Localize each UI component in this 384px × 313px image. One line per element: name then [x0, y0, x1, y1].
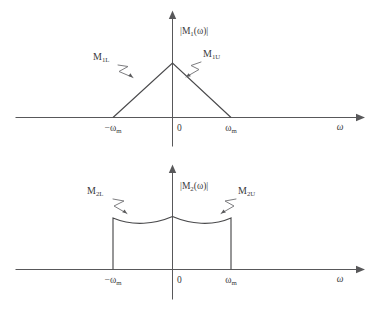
panel-2-callout-m2l-label: M2L	[87, 185, 103, 197]
panel-2-x-axis	[16, 266, 365, 273]
panel-2-plot: |M2(ω)| ω −ωm 0 ωm M2L M2U	[0, 156, 384, 313]
panel-2-tick-label-zero: 0	[177, 275, 182, 285]
panel-1-y-axis-label-base: |M	[180, 26, 191, 36]
panel-2-callout-m2l-arrowhead	[122, 209, 127, 213]
panel-2-y-axis-arrowhead	[169, 165, 176, 174]
panel-2-callout-m2l: M2L	[87, 185, 127, 214]
panel-1-y-axis-label: |M1(ω)|	[180, 26, 208, 37]
panel-2-y-axis-label-tail: (ω)|	[194, 181, 209, 192]
panel-1-callout-m1u: M1U	[186, 48, 220, 77]
panel-1-y-axis-label-tail: (ω)|	[194, 26, 209, 37]
panel-1-x-axis-label: ω	[337, 122, 344, 132]
panel-2-tick-label-pos-wm: ωm	[225, 275, 237, 286]
panel-1-y-axis-arrowhead	[169, 11, 176, 20]
panel-1-y-axis	[169, 11, 176, 147]
panel-1-x-axis-arrowhead	[356, 114, 365, 121]
panel-1-tick-label-zero: 0	[177, 123, 182, 133]
panel-2-callout-m2u: M2U	[221, 185, 255, 214]
figure-container: |M1(ω)| ω −ωm 0 ωm M1L M1U	[0, 0, 384, 313]
panel-2-y-axis	[169, 165, 176, 300]
panel-1-tick-label-neg-wm: −ωm	[105, 123, 123, 134]
panel-2-y-axis-label: |M2(ω)|	[180, 181, 208, 192]
panel-2-callout-m2u-label: M2U	[238, 185, 255, 197]
panel-2-y-axis-label-base: |M	[180, 181, 191, 191]
panel-1-tick-label-pos-wm: ωm	[225, 123, 237, 134]
panel-1-plot: |M1(ω)| ω −ωm 0 ωm M1L M1U	[0, 0, 384, 156]
panel-1-x-axis	[16, 114, 365, 121]
panel-2-x-axis-label: ω	[337, 274, 344, 284]
panel-1-callout-m1l-label: M1L	[93, 51, 109, 63]
panel-2-x-axis-arrowhead	[356, 266, 365, 273]
panel-2-tick-label-neg-wm: −ωm	[105, 275, 123, 286]
panel-1-callout-m1u-label: M1U	[203, 48, 220, 60]
panel-1-callout-m1l: M1L	[93, 51, 133, 78]
